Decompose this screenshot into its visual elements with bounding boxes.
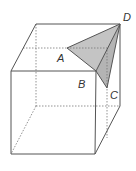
cube-diagram: D A B C [0, 0, 136, 171]
label-d: D [123, 11, 131, 23]
label-c: C [110, 89, 118, 101]
label-a: A [56, 52, 64, 64]
label-b: B [78, 78, 85, 90]
